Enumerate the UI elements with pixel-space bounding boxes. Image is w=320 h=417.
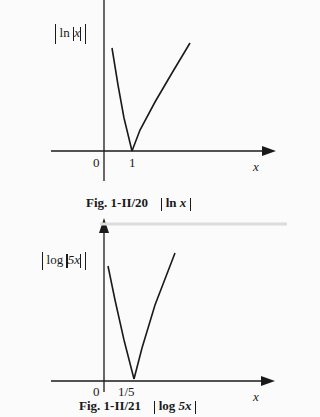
- tick-label: 1/5: [118, 385, 135, 398]
- curve-log-left-branch: [108, 266, 134, 379]
- curve-log-right-branch: [134, 253, 175, 379]
- x-axis-label: x: [253, 390, 259, 403]
- figure-caption: Fig. 1-II/21 log 5x: [79, 399, 196, 414]
- origin-label: 0: [93, 385, 100, 398]
- origin-label: 0: [93, 156, 100, 169]
- figure-2-axes: [51, 218, 275, 392]
- curve-ln-right-branch: [132, 43, 190, 151]
- x-axis-label: x: [253, 160, 259, 173]
- x-axis-arrow-icon: [262, 146, 276, 156]
- y-axis-label: log 5x: [42, 252, 86, 270]
- figure-caption: Fig. 1-II/20 ln x: [86, 196, 191, 211]
- tick-label: 1: [129, 156, 136, 169]
- curve-ln-left-branch: [112, 48, 132, 151]
- y-axis-label: ln x: [55, 24, 86, 44]
- x-axis-arrow-icon: [261, 376, 275, 386]
